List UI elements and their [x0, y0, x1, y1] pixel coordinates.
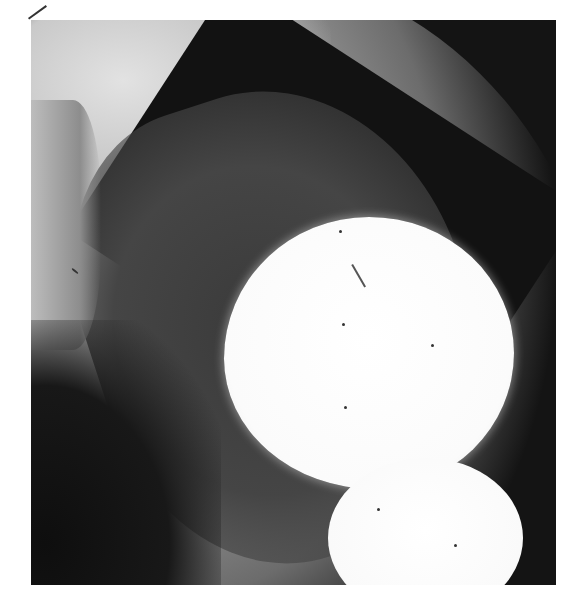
film-speck	[454, 544, 457, 547]
corner-mark	[28, 5, 47, 19]
large-radiopaque-mass	[224, 217, 514, 489]
film-speck	[431, 344, 434, 347]
film-speck	[344, 406, 347, 409]
dark-lower-left-region	[31, 320, 221, 585]
xray-image	[31, 20, 556, 585]
film-speck	[342, 323, 345, 326]
film-speck	[339, 230, 342, 233]
film-speck	[377, 508, 380, 511]
left-bright-strip	[31, 100, 101, 350]
